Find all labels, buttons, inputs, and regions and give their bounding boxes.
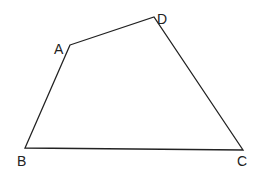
quadrilateral-shape — [25, 17, 243, 150]
vertex-label-c: C — [237, 153, 247, 169]
vertex-label-a: A — [54, 41, 64, 57]
quadrilateral-diagram: A D C B — [0, 0, 262, 178]
vertex-label-b: B — [17, 153, 26, 169]
vertex-label-d: D — [157, 11, 167, 27]
